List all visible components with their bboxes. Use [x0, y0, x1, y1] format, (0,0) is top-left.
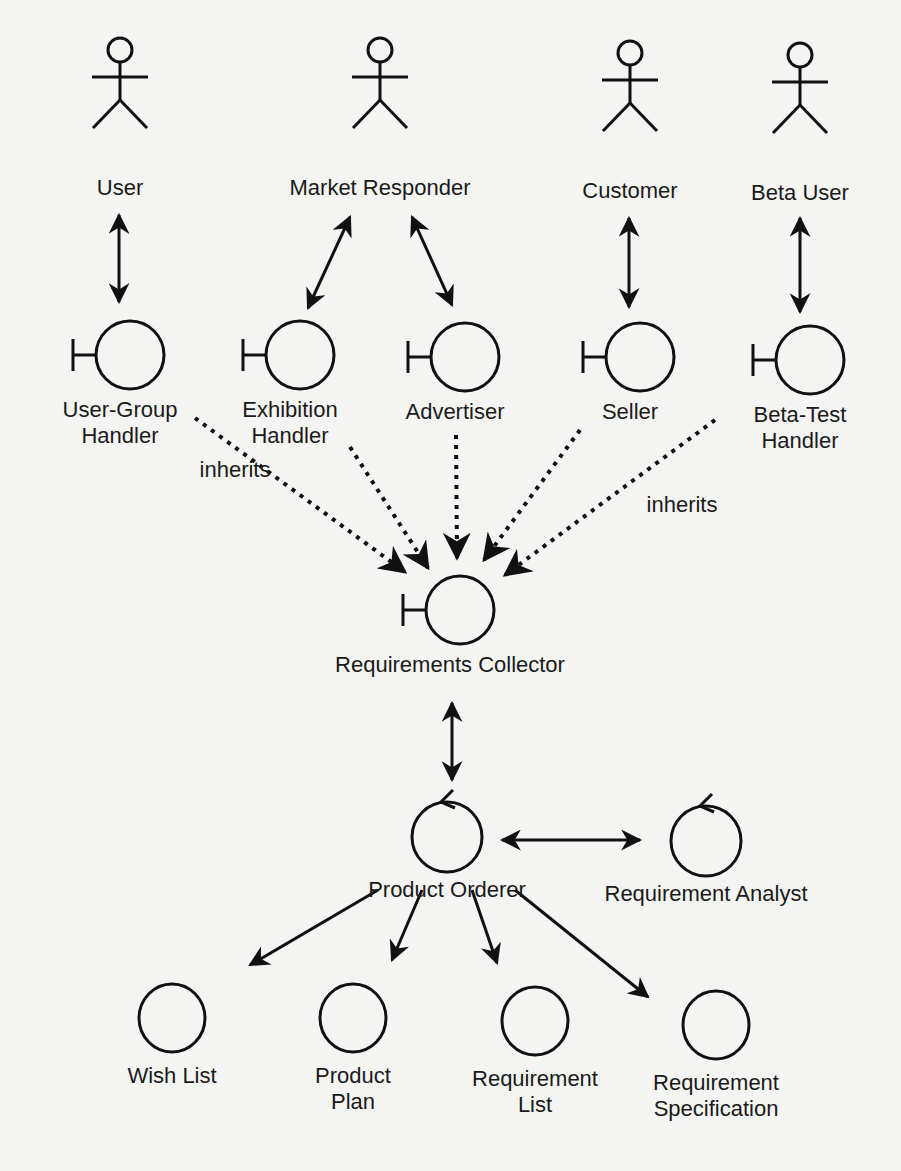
entity-pp: ProductPlan — [315, 984, 391, 1114]
boundary-object-icon — [403, 576, 494, 644]
entity-wl: Wish List — [127, 984, 216, 1088]
directed-association — [515, 890, 648, 997]
entity-rl: RequirementList — [472, 987, 598, 1117]
inherits-dependency — [484, 430, 580, 560]
node-label: Seller — [602, 399, 658, 424]
stick-figure-icon — [92, 38, 148, 128]
boundary-object-icon — [753, 326, 844, 394]
node-label: Specification — [654, 1096, 779, 1121]
boundary-adv: Advertiser — [405, 323, 504, 424]
control-object-icon — [671, 794, 741, 876]
entity-object-icon — [683, 991, 749, 1059]
inherits-annotation: inherits — [200, 457, 271, 482]
node-label: Beta-Test — [754, 402, 847, 427]
boundary-object-icon — [73, 321, 164, 389]
boundary-exh: ExhibitionHandler — [242, 321, 337, 448]
node-label: Handler — [81, 423, 158, 448]
node-label: Plan — [331, 1089, 375, 1114]
stick-figure-icon — [772, 43, 828, 133]
boundary-object-icon — [408, 323, 499, 391]
boundary-ugh: User-GroupHandler — [63, 321, 178, 448]
node-label: Handler — [251, 423, 328, 448]
entity-object-icon — [320, 984, 386, 1052]
node-label: Requirement — [653, 1070, 779, 1095]
inherits-annotation: inherits — [647, 492, 718, 517]
node-label: Advertiser — [405, 399, 504, 424]
node-label: Wish List — [127, 1063, 216, 1088]
node-label: Requirement — [472, 1066, 598, 1091]
actor-label: Market Responder — [290, 175, 471, 200]
stick-figure-icon — [602, 41, 658, 131]
node-label: List — [518, 1092, 552, 1117]
actor-user: User — [92, 38, 148, 200]
control-po: Product Orderer — [368, 790, 526, 902]
boundary-object-icon — [243, 321, 334, 389]
inherits-dependency — [456, 435, 457, 558]
stick-figure-icon — [352, 38, 408, 128]
node-label: Exhibition — [242, 397, 337, 422]
entity-rs: RequirementSpecification — [653, 991, 779, 1121]
inherits-dependency — [350, 447, 428, 568]
nodes: UserMarket ResponderCustomerBeta UserUse… — [63, 38, 849, 1121]
entity-object-icon — [502, 987, 568, 1055]
boundary-rc: Requirements Collector — [335, 576, 565, 677]
actor-label: Beta User — [751, 180, 849, 205]
node-label: Product — [315, 1063, 391, 1088]
boundary-object-icon — [583, 323, 674, 391]
actor-beta: Beta User — [751, 43, 849, 205]
directed-association — [250, 890, 378, 965]
actor-customer: Customer — [582, 41, 677, 203]
control-label: Requirement Analyst — [605, 881, 808, 906]
uml-robustness-diagram: UserMarket ResponderCustomerBeta UserUse… — [0, 0, 901, 1171]
node-label: User-Group — [63, 397, 178, 422]
control-object-icon — [412, 790, 482, 872]
control-ra: Requirement Analyst — [605, 794, 808, 906]
boundary-sel: Seller — [583, 323, 674, 424]
control-label: Product Orderer — [368, 877, 526, 902]
node-label: Handler — [761, 428, 838, 453]
entity-object-icon — [139, 984, 205, 1052]
bidirectional-association — [308, 217, 350, 308]
bidirectional-association — [412, 217, 452, 305]
node-label: Requirements Collector — [335, 652, 565, 677]
boundary-bth: Beta-TestHandler — [753, 326, 846, 453]
actor-label: User — [97, 175, 143, 200]
actor-market: Market Responder — [290, 38, 471, 200]
actor-label: Customer — [582, 178, 677, 203]
